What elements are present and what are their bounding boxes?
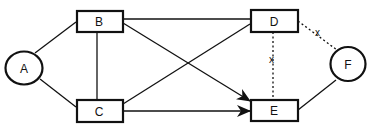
node-f-label: F	[344, 58, 351, 72]
node-a-label: A	[20, 62, 28, 76]
node-c: C	[77, 100, 123, 122]
edge-e-f	[298, 80, 336, 110]
edge-label-d-e: x	[269, 54, 274, 65]
node-b: B	[77, 11, 123, 32]
node-a: A	[6, 52, 43, 85]
edge-a-b	[35, 22, 76, 53]
edge-b-e-arrow	[123, 23, 250, 101]
node-d: D	[251, 10, 298, 32]
edge-a-c	[40, 79, 76, 107]
node-e: E	[251, 100, 298, 121]
node-c-label: C	[95, 105, 104, 119]
node-b-label: B	[95, 15, 103, 29]
node-f: F	[331, 47, 366, 81]
graph-diagram: x x A B C D E F	[0, 0, 368, 137]
node-e-label: E	[270, 104, 278, 118]
node-d-label: D	[270, 15, 279, 29]
edge-label-d-f: x	[315, 27, 320, 38]
edge-c-d	[123, 24, 250, 104]
